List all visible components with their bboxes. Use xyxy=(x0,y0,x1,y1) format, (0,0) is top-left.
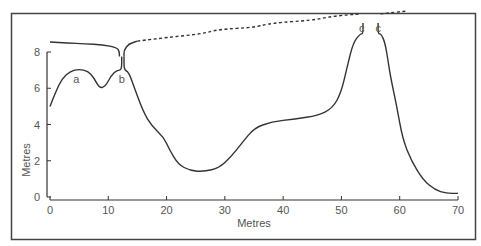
series-upper-profile-right xyxy=(124,41,137,56)
annotation-label-a: a xyxy=(73,73,80,85)
y-tick-label: 4 xyxy=(34,119,40,131)
x-tick-label: 50 xyxy=(335,204,347,216)
cross-section-chart: 02468 010203040506070 Metres Metres abcc xyxy=(0,0,481,246)
y-axis-label: Metres xyxy=(20,143,32,177)
annotation-label-c: c xyxy=(375,22,381,34)
y-axis: 02468 xyxy=(34,46,51,203)
y-tick-label: 8 xyxy=(34,46,40,58)
series-dashed-surface xyxy=(137,14,360,41)
x-tick-label: 10 xyxy=(102,204,114,216)
y-tick-label: 2 xyxy=(34,155,40,167)
series-valley-profile xyxy=(124,23,363,171)
y-tick-label: 6 xyxy=(34,82,40,94)
x-tick-label: 20 xyxy=(160,204,172,216)
y-tick-label: 0 xyxy=(34,191,40,203)
plot-area xyxy=(50,11,458,193)
x-tick-label: 40 xyxy=(277,204,289,216)
x-tick-label: 0 xyxy=(47,204,53,216)
annotation-label-c: c xyxy=(359,22,365,34)
x-axis: 010203040506070 xyxy=(47,196,464,216)
figure-frame xyxy=(12,14,476,240)
x-tick-label: 30 xyxy=(219,204,231,216)
x-tick-label: 60 xyxy=(394,204,406,216)
series-upper-profile-left xyxy=(50,42,119,57)
series-right-cave-profile xyxy=(378,23,458,193)
x-axis-label: Metres xyxy=(237,217,271,229)
annotation-label-b: b xyxy=(119,73,125,85)
series-lower-profile xyxy=(50,57,122,107)
x-tick-label: 70 xyxy=(452,204,464,216)
